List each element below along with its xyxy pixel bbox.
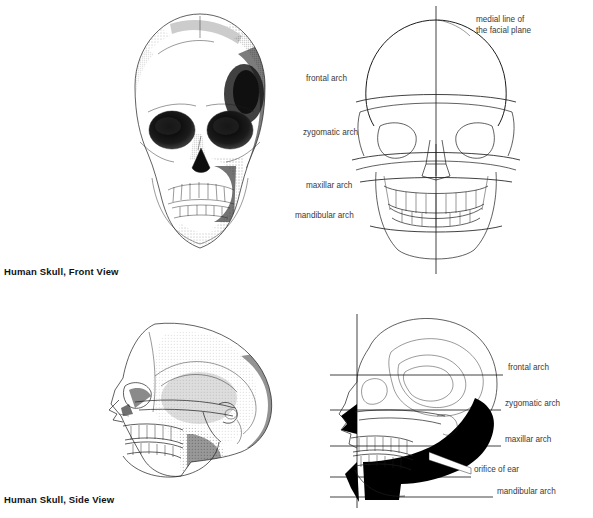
front-skull-schematic <box>330 0 593 280</box>
label-medial-line: medial line of the facial plane <box>476 14 531 36</box>
side-schematic-svg <box>325 312 593 512</box>
front-skull-drawing-svg <box>118 8 283 263</box>
label-front-maxillar-arch: maxillar arch <box>306 180 352 191</box>
label-front-mandibular-arch: mandibular arch <box>295 210 354 221</box>
side-skull-rendering <box>95 316 305 494</box>
label-side-mandibular-arch: mandibular arch <box>497 486 556 497</box>
side-skull-drawing-svg <box>95 316 305 494</box>
label-side-frontal-arch: frontal arch <box>508 362 549 373</box>
front-skull-rendering <box>118 8 283 263</box>
label-side-maxillar-arch: maxillar arch <box>505 434 551 445</box>
anatomical-plate: medial line of the facial plane frontal … <box>0 0 593 518</box>
label-side-orifice-of-ear: orifice of ear <box>474 464 519 475</box>
label-side-zygomatic-arch: zygomatic arch <box>505 398 560 409</box>
side-skull-schematic <box>325 312 593 512</box>
label-front-frontal-arch: frontal arch <box>306 73 347 84</box>
front-view-caption: Human Skull, Front View <box>4 266 119 277</box>
temporal-mass-fill <box>363 398 494 500</box>
label-front-zygomatic-arch: zygomatic arch <box>303 127 358 138</box>
side-view-caption: Human Skull, Side View <box>4 494 114 505</box>
front-schematic-svg <box>330 0 593 280</box>
